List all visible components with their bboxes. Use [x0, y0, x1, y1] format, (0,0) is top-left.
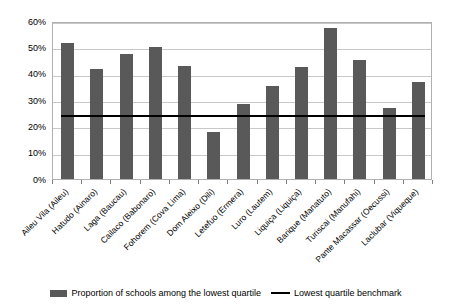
x-tick — [227, 180, 228, 184]
x-tick — [81, 180, 82, 184]
legend-entry-benchmark: Lowest quartile benchmark — [271, 288, 402, 298]
legend-entry-bars: Proportion of schools among the lowest q… — [50, 288, 261, 298]
x-tick — [286, 180, 287, 184]
bar — [353, 60, 366, 179]
y-tick-label-0: 0% — [0, 176, 46, 185]
bar — [149, 47, 162, 179]
plot-area — [52, 22, 432, 180]
y-tick-label-10: 10% — [0, 149, 46, 158]
bar-chart: 60% 50% 40% 30% 20% 10% 0% Aileu Vila (A… — [0, 0, 452, 308]
x-tick — [315, 180, 316, 184]
gridline-40 — [53, 76, 431, 77]
bar — [207, 132, 220, 179]
x-tick — [198, 180, 199, 184]
y-tick-label-60: 60% — [0, 18, 46, 27]
chart-legend: Proportion of schools among the lowest q… — [0, 286, 452, 300]
benchmark-line — [61, 115, 425, 117]
x-tick — [374, 180, 375, 184]
y-tick-label-20: 20% — [0, 123, 46, 132]
x-tick — [169, 180, 170, 184]
gridline-30 — [53, 102, 431, 103]
legend-label-bars: Proportion of schools among the lowest q… — [71, 288, 261, 298]
bar — [383, 108, 396, 179]
bar — [266, 86, 279, 179]
legend-label-benchmark: Lowest quartile benchmark — [294, 288, 402, 298]
x-tick — [110, 180, 111, 184]
x-tick — [257, 180, 258, 184]
x-tick — [432, 180, 433, 184]
x-tick — [403, 180, 404, 184]
x-tick — [140, 180, 141, 184]
bar — [178, 66, 191, 179]
x-tick — [344, 180, 345, 184]
bar — [295, 67, 308, 179]
y-tick-label-40: 40% — [0, 70, 46, 79]
bar — [412, 82, 425, 179]
bar — [324, 28, 337, 179]
bar — [90, 69, 103, 179]
legend-line-swatch-icon — [271, 292, 290, 294]
gridline-60 — [53, 23, 431, 24]
y-tick-label-30: 30% — [0, 97, 46, 106]
y-tick-label-50: 50% — [0, 44, 46, 53]
gridline-50 — [53, 49, 431, 50]
x-tick — [52, 180, 53, 184]
bar — [61, 43, 74, 179]
legend-bar-swatch-icon — [50, 290, 67, 297]
